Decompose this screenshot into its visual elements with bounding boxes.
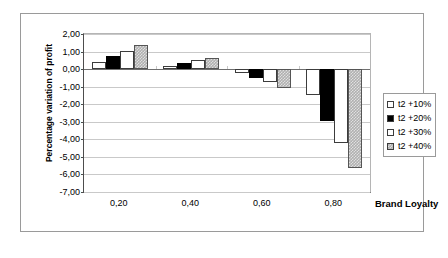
bar [249, 69, 263, 78]
bar-group [92, 34, 148, 192]
category-separator [156, 66, 157, 69]
y-tick-label: -6,00 [59, 169, 80, 179]
x-tick-label: 0,60 [253, 198, 271, 208]
y-tick-label: 2,00 [62, 29, 80, 39]
chart-legend: t2 +10%t2 +20%t2 +30%t2 +40% [383, 93, 436, 157]
y-tick-label: -1,00 [59, 82, 80, 92]
gridline [84, 192, 370, 193]
y-tick-mark [81, 139, 84, 140]
bar-group [235, 34, 291, 192]
chart-figure: Percentage variation of profit 2,001,000… [0, 0, 448, 258]
y-tick-mark [81, 52, 84, 53]
legend-item[interactable]: t2 +10% [387, 97, 431, 111]
category-separator [299, 66, 300, 69]
bar [163, 66, 177, 70]
bar [277, 69, 291, 88]
bar [235, 69, 249, 73]
x-tick-label: 0,20 [110, 198, 128, 208]
legend-item[interactable]: t2 +30% [387, 125, 431, 139]
y-tick-label: -2,00 [59, 99, 80, 109]
y-tick-mark [81, 174, 84, 175]
y-tick-mark [81, 34, 84, 35]
chart-frame: Percentage variation of profit 2,001,000… [20, 13, 424, 232]
bar [348, 69, 362, 168]
category-separator [227, 66, 228, 69]
bar [106, 56, 120, 69]
y-tick-mark [81, 87, 84, 88]
bar [263, 69, 277, 82]
y-tick-label: -3,00 [59, 117, 80, 127]
bar [134, 45, 148, 70]
bar [177, 63, 191, 69]
bar [205, 58, 219, 69]
legend-item[interactable]: t2 +40% [387, 139, 431, 153]
y-tick-label: -5,00 [59, 152, 80, 162]
x-tick-label: 0,80 [324, 198, 342, 208]
y-tick-label: -7,00 [59, 187, 80, 197]
legend-label: t2 +40% [398, 141, 431, 151]
y-tick-label: 0,00 [62, 64, 80, 74]
legend-swatch-icon [387, 129, 394, 136]
bar [191, 60, 205, 69]
y-tick-mark [81, 69, 84, 70]
y-tick-mark [81, 104, 84, 105]
plot-area: 2,001,000,00-1,00-2,00-3,00-4,00-5,00-6,… [83, 33, 371, 193]
bar-group [306, 34, 362, 192]
legend-label: t2 +20% [398, 113, 431, 123]
y-tick-mark [81, 157, 84, 158]
legend-swatch-icon [387, 101, 394, 108]
bar [92, 62, 106, 69]
y-tick-label: -4,00 [59, 134, 80, 144]
bar [120, 51, 134, 69]
bar [320, 69, 334, 121]
x-axis-title: Brand Loyalty [375, 198, 438, 209]
bar [334, 69, 348, 143]
y-axis-title: Percentage variation of profit [44, 23, 54, 183]
bar-group [163, 34, 219, 192]
legend-swatch-icon [387, 143, 394, 150]
x-tick-label: 0,40 [181, 198, 199, 208]
y-tick-mark [81, 192, 84, 193]
bar [306, 69, 320, 95]
legend-item[interactable]: t2 +20% [387, 111, 431, 125]
legend-swatch-icon [387, 115, 394, 122]
legend-label: t2 +10% [398, 99, 431, 109]
y-tick-label: 1,00 [62, 47, 80, 57]
legend-label: t2 +30% [398, 127, 431, 137]
y-tick-mark [81, 122, 84, 123]
